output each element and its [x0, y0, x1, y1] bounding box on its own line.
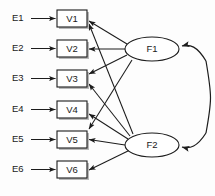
error-arrows: [31, 19, 56, 170]
indicator-label-v5: V5: [66, 134, 78, 145]
loading-f2-v6: [89, 150, 130, 170]
loading-f2-v5: [89, 140, 125, 146]
indicator-label-v4: V4: [66, 104, 78, 115]
factor-label-f2: F2: [146, 139, 157, 150]
indicator-label-v6: V6: [66, 164, 78, 175]
error-terms: E1 E2 E3 E4 E5 E6: [12, 12, 24, 174]
indicator-label-v3: V3: [66, 73, 78, 84]
indicator-label-v1: V1: [66, 13, 78, 24]
indicator-label-v2: V2: [66, 43, 78, 54]
error-label-e1: E1: [12, 12, 24, 23]
observed-indicators: V1 V2 V3 V4 V5 V6: [57, 10, 89, 180]
sem-path-diagram: F1 F2 V1 V2 V3 V4 V5 V6 E1 E: [0, 0, 215, 196]
latent-factors: F1 F2: [125, 37, 179, 157]
error-label-e5: E5: [12, 133, 24, 144]
error-label-e6: E6: [12, 163, 24, 174]
factor-covariance-path: [182, 45, 211, 147]
error-label-e4: E4: [12, 103, 24, 114]
error-label-e2: E2: [12, 42, 24, 53]
loading-f1-v1: [89, 21, 127, 44]
error-label-e3: E3: [12, 72, 24, 83]
factor-label-f1: F1: [146, 43, 157, 54]
